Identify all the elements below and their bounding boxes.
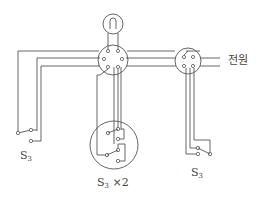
wiring-diagram xyxy=(0,0,267,198)
switch-center-label: S3 ×2 xyxy=(97,177,129,190)
junction-box-right xyxy=(175,48,201,74)
switch-right-label: S3 xyxy=(191,167,203,180)
junction-box-main xyxy=(98,45,128,75)
switch-right-s3 xyxy=(196,146,211,155)
power-label: 전원 xyxy=(228,55,248,66)
lamp xyxy=(103,14,123,49)
switch-left-label: S3 xyxy=(20,150,32,163)
lamp-filament-icon xyxy=(110,18,116,29)
